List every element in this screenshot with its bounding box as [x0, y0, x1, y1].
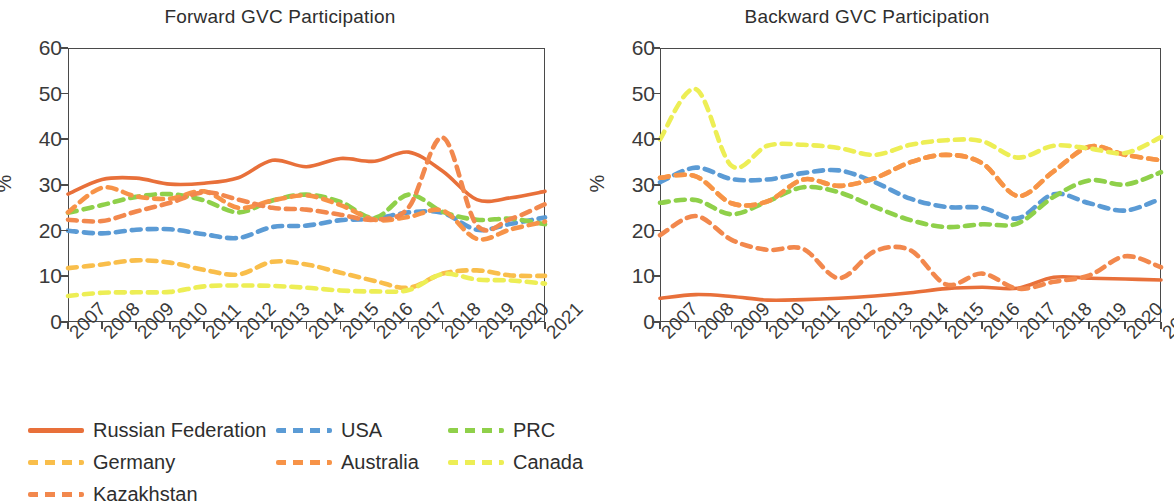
- chart-panel-forward: Forward GVC Participation % 605040302010…: [0, 0, 587, 501]
- y-tick-label: 50: [39, 83, 62, 104]
- y-tick-mark: [60, 93, 68, 95]
- y-tick-mark: [652, 47, 660, 49]
- legend-swatch-dashed-line-icon: [28, 460, 84, 465]
- y-tick-mark: [60, 47, 68, 49]
- legend-label: Germany: [93, 451, 175, 474]
- y-tick-mark: [60, 138, 68, 140]
- legend-item-germany[interactable]: Germany: [28, 451, 276, 474]
- chart-title-forward: Forward GVC Participation: [10, 6, 550, 28]
- series-line-canada: [660, 89, 1161, 168]
- legend-swatch-dashed-line-icon: [448, 460, 504, 465]
- figure-root: Forward GVC Participation % 605040302010…: [0, 0, 1174, 501]
- legend-item-usa[interactable]: USA: [276, 419, 448, 442]
- legend-label: USA: [341, 419, 382, 442]
- legend-grid-forward: Russian FederationUSAPRCGermanyAustralia…: [28, 414, 583, 501]
- legend-swatch-dashed-line-icon: [28, 492, 84, 497]
- plot-area-backward: [660, 48, 1161, 322]
- chart-panel-backward: Backward GVC Participation % 60504030201…: [587, 0, 1174, 501]
- y-axis-label-forward: %: [0, 175, 16, 193]
- series-line-usa: [660, 168, 1161, 219]
- chart-title-backward: Backward GVC Participation: [597, 6, 1137, 28]
- legend-label: PRC: [513, 419, 555, 442]
- legend-label: Russian Federation: [93, 419, 266, 442]
- legend-swatch-solid-line-icon: [28, 428, 84, 433]
- legend-swatch-dashed-line-icon: [276, 428, 332, 433]
- y-axis-ticks-backward: 6050403020100: [609, 48, 655, 322]
- y-axis-ticks-forward: 6050403020100: [16, 48, 62, 322]
- series-line-kazakhstan: [68, 137, 545, 230]
- y-tick-label: 30: [39, 174, 62, 195]
- plot-area-forward: [68, 48, 545, 322]
- series-line-germany: [68, 260, 545, 288]
- y-tick-mark: [60, 275, 68, 277]
- series-line-kazakhstan: [660, 216, 1161, 289]
- y-tick-label: 10: [39, 265, 62, 286]
- series-canvas-backward: [660, 48, 1161, 322]
- y-tick-label: 20: [39, 220, 62, 241]
- legend-item-kazakhstan[interactable]: Kazakhstan: [28, 483, 276, 501]
- y-tick-label: 40: [39, 128, 62, 149]
- y-axis-label-backward: %: [586, 175, 609, 193]
- y-tick-mark: [652, 230, 660, 232]
- legend-swatch-dashed-line-icon: [448, 428, 504, 433]
- y-tick-mark: [652, 275, 660, 277]
- legend-item-canada[interactable]: Canada: [448, 451, 583, 474]
- series-line-russian-federation: [660, 277, 1161, 301]
- series-line-canada: [68, 274, 545, 296]
- y-tick-mark: [652, 138, 660, 140]
- legend-swatch-dashed-line-icon: [276, 460, 332, 465]
- legend-item-prc[interactable]: PRC: [448, 419, 583, 442]
- legend-label: Kazakhstan: [93, 483, 198, 501]
- series-canvas-forward: [68, 48, 545, 322]
- y-tick-mark: [652, 184, 660, 186]
- legend-label: Canada: [513, 451, 583, 474]
- x-tick-label: 2021: [542, 298, 587, 343]
- legend-item-russian-federation[interactable]: Russian Federation: [28, 419, 276, 442]
- y-tick-mark: [60, 184, 68, 186]
- legend-label: Australia: [341, 451, 419, 474]
- y-tick-label: 60: [39, 37, 62, 58]
- y-tick-mark: [60, 230, 68, 232]
- legend-item-australia[interactable]: Australia: [276, 451, 448, 474]
- y-tick-mark: [652, 93, 660, 95]
- legend-forward: Russian FederationUSAPRCGermanyAustralia…: [28, 414, 583, 501]
